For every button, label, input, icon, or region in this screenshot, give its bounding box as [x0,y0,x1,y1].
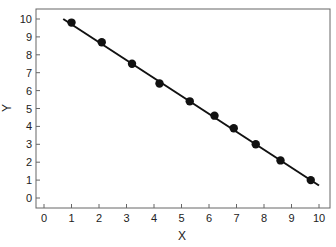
x-tick-label: 8 [261,212,267,224]
data-point [67,18,75,26]
x-axis: 012345678910 [41,204,325,224]
y-tick-label: 0 [26,192,32,204]
y-axis: 012345678910 [20,13,40,204]
x-tick-label: 0 [41,212,47,224]
x-axis-label: X [178,229,186,243]
data-point [98,38,106,46]
y-tick-label: 7 [26,67,32,79]
y-tick-label: 8 [26,49,32,61]
y-axis-label: Y [0,104,14,112]
data-point [155,79,163,87]
plot-frame [36,9,330,208]
data-point [230,124,238,132]
x-tick-label: 4 [151,212,157,224]
x-tick-label: 3 [123,212,129,224]
x-tick-label: 2 [96,212,102,224]
y-tick-label: 3 [26,138,32,150]
y-tick-label: 5 [26,103,32,115]
data-point [210,111,218,119]
y-tick-label: 9 [26,31,32,43]
data-point [252,140,260,148]
y-tick-label: 1 [26,174,32,186]
x-tick-label: 1 [68,212,74,224]
data-points [67,18,315,184]
y-tick-label: 10 [20,13,32,25]
x-tick-label: 9 [288,212,294,224]
y-tick-label: 2 [26,156,32,168]
data-point [276,156,284,164]
x-tick-label: 7 [233,212,239,224]
x-tick-label: 10 [313,212,325,224]
data-point [128,60,136,68]
data-point [307,176,315,184]
y-tick-label: 6 [26,85,32,97]
x-tick-label: 6 [206,212,212,224]
y-tick-label: 4 [26,120,32,132]
x-tick-label: 5 [178,212,184,224]
data-point [186,97,194,105]
scatter-chart: 012345678910 012345678910 X Y [0,0,336,247]
